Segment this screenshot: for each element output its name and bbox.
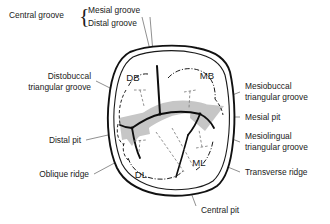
label-mesial-pit: Mesial pit [245,112,281,122]
cusp-label-mb: MB [200,70,214,81]
label-mesiobuccal-triangular-groove-line2: triangular groove [245,92,308,102]
label-transverse-ridge: Transverse ridge [245,167,308,177]
label-mesiobuccal-triangular-groove-line1: Mesiobuccal [245,81,292,91]
central-pit-mark [159,113,162,116]
tooth-occlusal-diagram: DB MB DL ML Central groove { Mesial groo… [0,0,330,224]
cusp-label-db: DB [126,72,139,83]
label-central-pit: Central pit [201,205,240,215]
distal-pit-mark [131,127,134,130]
label-central-groove: Central groove [9,10,64,20]
label-distal-pit: Distal pit [49,135,82,145]
label-mesial-groove: Mesial groove [88,5,140,15]
label-distal-groove: Distal groove [88,18,137,28]
cusp-label-ml: ML [192,157,206,168]
cusp-label-dl: DL [135,169,148,180]
tooth-crown [108,46,235,196]
label-mesiolingual-triangular-groove-line1: Mesiolingual [245,131,292,141]
label-distobuccal-triangular-groove-line2: triangular groove [28,82,91,92]
mesial-pit-mark [199,113,202,116]
label-mesiolingual-triangular-groove-line2: triangular groove [245,142,308,152]
label-distobuccal-triangular-groove-line1: Distobuccal [48,71,91,81]
label-oblique-ridge: Oblique ridge [39,169,89,179]
